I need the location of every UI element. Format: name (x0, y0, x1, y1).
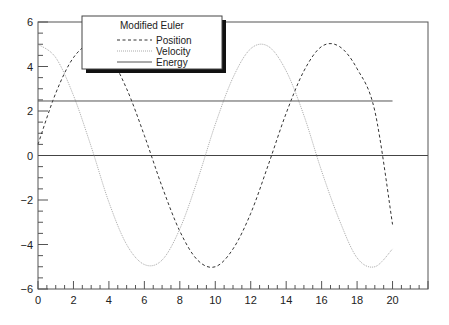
x-tick-label: 4 (106, 294, 112, 306)
y-tick-label: −6 (20, 283, 33, 295)
y-tick-label: 0 (27, 150, 33, 162)
x-tick-label: 12 (245, 294, 257, 306)
x-tick-label: 20 (386, 294, 398, 306)
y-tick-label: −4 (20, 239, 33, 251)
x-tick-label: 8 (177, 294, 183, 306)
x-tick-label: 10 (209, 294, 221, 306)
legend-energy-label: Energy (156, 57, 188, 68)
y-tick-label: −2 (20, 194, 33, 206)
chart: −6−4−20246 02468101214161820 Modified Eu… (0, 0, 449, 325)
plot-area (38, 44, 428, 268)
legend: Modified Euler Position Velocity Energy (82, 16, 226, 73)
x-tick-label: 6 (141, 294, 147, 306)
legend-title: Modified Euler (120, 20, 185, 31)
y-tick-label: 4 (27, 61, 33, 73)
x-tick-label: 2 (70, 294, 76, 306)
x-axis: 02468101214161820 (35, 281, 428, 306)
x-tick-label: 16 (316, 294, 328, 306)
legend-position-label: Position (156, 35, 192, 46)
x-tick-label: 18 (351, 294, 363, 306)
x-tick-label: 0 (35, 294, 41, 306)
y-tick-label: 2 (27, 105, 33, 117)
x-tick-label: 14 (280, 294, 292, 306)
y-tick-label: 6 (27, 16, 33, 28)
legend-velocity-label: Velocity (156, 46, 190, 57)
